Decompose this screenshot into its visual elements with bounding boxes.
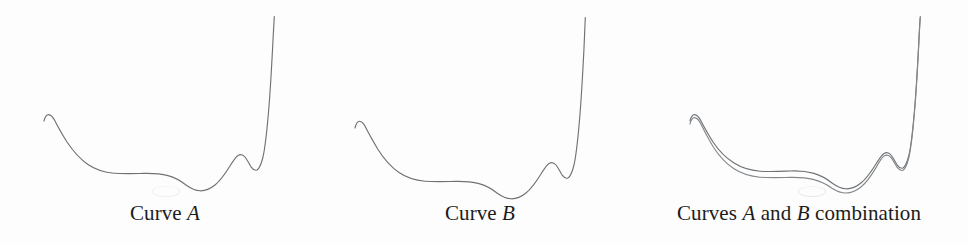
panel-curve-b: Curve B: [330, 0, 630, 244]
plot-area-curve-a: [0, 0, 330, 200]
caption-curve-b: Curve B: [330, 198, 630, 228]
caption-curve-a-prefix: Curve: [130, 201, 187, 225]
panel-curve-a: Curve A: [0, 0, 330, 244]
caption-combination-symbol-a: A: [742, 201, 755, 225]
combination-curve-a-path: [690, 17, 920, 189]
caption-curve-b-prefix: Curve: [445, 201, 502, 225]
figure-root: Curve A Curve B Curves A and B combinati…: [0, 0, 968, 244]
curve-b-path: [355, 18, 585, 199]
caption-combination-symbol-b: B: [797, 201, 810, 225]
combination-curve-b-path: [690, 18, 920, 194]
panel-curves-combination: Curves A and B combination: [630, 0, 968, 244]
plot-area-curve-b: [330, 0, 630, 200]
caption-curve-b-symbol: B: [502, 201, 515, 225]
curve-a-svg: [0, 0, 330, 200]
curve-b-svg: [330, 0, 630, 200]
caption-combination-suffix: combination: [810, 201, 921, 225]
caption-curve-a: Curve A: [0, 198, 330, 228]
curves-combination-svg: [630, 0, 968, 200]
plot-area-curves-combination: [630, 0, 968, 200]
curve-a-path: [44, 17, 274, 191]
caption-curve-a-symbol: A: [187, 201, 200, 225]
caption-combination-prefix: Curves: [677, 201, 742, 225]
caption-combination-middle: and: [755, 201, 796, 225]
caption-curves-combination: Curves A and B combination: [630, 198, 968, 228]
